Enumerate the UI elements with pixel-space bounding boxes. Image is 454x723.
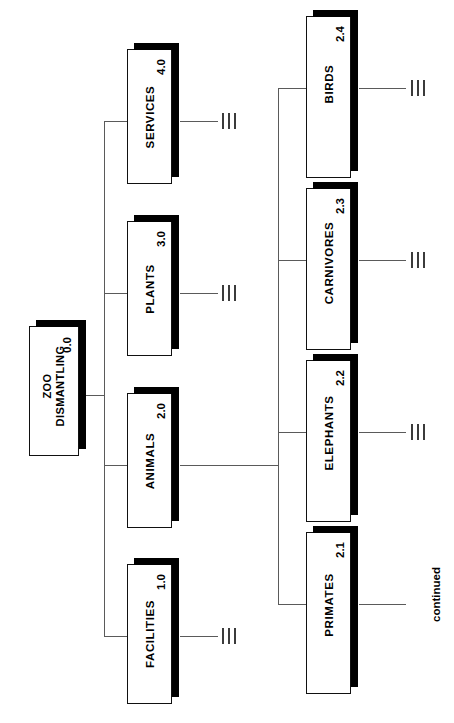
wbs-label-carnivores-wrap: CARNIVORES — [322, 221, 335, 304]
node-shadow-cap — [134, 558, 179, 565]
node-shadow-cap — [313, 10, 358, 17]
wbs-node-birds[interactable]: 2.4 BIRDS — [306, 16, 351, 178]
node-body: 2.2 ELEPHANTS — [307, 361, 350, 521]
wbs-node-zoo-dismantling[interactable]: 0.0 ZOO DISMANTLING — [29, 326, 79, 456]
node-shadow — [172, 558, 179, 697]
wbs-code-birds: 2.4 — [334, 26, 346, 42]
node-shadow — [351, 354, 358, 515]
wbs-label-elephants-wrap: ELEPHANTS — [322, 395, 335, 470]
wbs-label-facilities: FACILITIES — [143, 600, 156, 668]
stub-mark — [234, 285, 236, 301]
node-body: 3.0 PLANTS — [128, 222, 171, 355]
wbs-label-carnivores: CARNIVORES — [322, 221, 335, 304]
wbs-node-elephants[interactable]: 2.2 ELEPHANTS — [306, 360, 351, 522]
wbs-code-services: 4.0 — [155, 59, 167, 75]
stub-mark — [234, 113, 236, 129]
wbs-code-carnivores: 2.3 — [334, 198, 346, 214]
wbs-node-services[interactable]: 4.0 SERVICES — [127, 49, 172, 184]
stub-mark — [417, 424, 419, 440]
stub-mark — [411, 252, 413, 268]
wbs-code-elephants: 2.2 — [334, 370, 346, 386]
stub-line-services — [180, 121, 218, 122]
wbs-label-facilities-wrap: FACILITIES — [143, 600, 156, 668]
stub-line-carnivores — [359, 260, 406, 261]
connector-trunk2-to-primates — [278, 604, 306, 605]
stub-mark — [222, 113, 224, 129]
node-shadow — [172, 387, 179, 521]
node-shadow-cap — [313, 354, 358, 361]
stub-marker-plants — [222, 285, 236, 301]
node-shadow — [351, 526, 358, 687]
connector-trunk2-to-birds — [278, 88, 306, 89]
node-shadow-cap — [134, 387, 179, 394]
wbs-code-plants: 3.0 — [155, 231, 167, 247]
wbs-code-animals: 2.0 — [155, 403, 167, 419]
stub-marker-services — [222, 113, 236, 129]
wbs-label-primates-wrap: PRIMATES — [322, 573, 335, 636]
connector-trunk2-to-elephants — [278, 432, 306, 433]
wbs-label-elephants: ELEPHANTS — [322, 395, 335, 470]
connector-trunk-to-plants — [104, 293, 127, 294]
node-shadow — [351, 10, 358, 171]
stub-mark — [417, 80, 419, 96]
wbs-node-animals[interactable]: 2.0 ANIMALS — [127, 393, 172, 528]
wbs-label-birds: BIRDS — [322, 65, 335, 104]
wbs-label-root: ZOO DISMANTLING — [41, 345, 67, 426]
wbs-code-primates: 2.1 — [334, 542, 346, 558]
connector-level1-trunk — [104, 121, 105, 637]
connector-level2-trunk — [278, 88, 279, 605]
node-body: 2.0 ANIMALS — [128, 394, 171, 527]
stub-line-plants — [180, 293, 218, 294]
wbs-node-carnivores[interactable]: 2.3 CARNIVORES — [306, 188, 351, 350]
stub-line-elephants — [359, 432, 406, 433]
stub-mark — [411, 424, 413, 440]
stub-mark — [423, 424, 425, 440]
stub-mark — [423, 80, 425, 96]
node-shadow — [79, 320, 86, 449]
connector-animals-stem — [180, 465, 279, 466]
wbs-label-plants: PLANTS — [143, 264, 156, 314]
stub-line-primates — [359, 604, 406, 605]
stub-mark — [234, 628, 236, 644]
wbs-code-facilities: 1.0 — [155, 574, 167, 590]
wbs-node-primates[interactable]: 2.1 PRIMATES — [306, 532, 351, 694]
node-body: 0.0 ZOO DISMANTLING — [30, 327, 78, 455]
wbs-label-services: SERVICES — [143, 85, 156, 148]
wbs-label-root-line2: DISMANTLING — [54, 345, 67, 426]
node-body: 2.3 CARNIVORES — [307, 189, 350, 349]
wbs-label-services-wrap: SERVICES — [143, 85, 156, 148]
stub-mark — [222, 628, 224, 644]
stub-mark — [228, 113, 230, 129]
wbs-node-facilities[interactable]: 1.0 FACILITIES — [127, 564, 172, 704]
stub-mark — [423, 252, 425, 268]
stub-marker-birds — [411, 80, 425, 96]
stub-mark — [417, 252, 419, 268]
stub-mark — [411, 80, 413, 96]
node-body: 2.4 BIRDS — [307, 17, 350, 177]
node-body: 1.0 FACILITIES — [128, 565, 171, 703]
connector-trunk2-to-carnivores — [278, 260, 306, 261]
wbs-label-birds-wrap: BIRDS — [322, 65, 335, 104]
wbs-label-animals: ANIMALS — [143, 432, 156, 489]
wbs-diagram-canvas: 0.0 ZOO DISMANTLING 4.0 SERVICES 3.0 PLA… — [0, 0, 454, 723]
stub-marker-carnivores — [411, 252, 425, 268]
node-shadow — [351, 182, 358, 343]
stub-marker-elephants — [411, 424, 425, 440]
wbs-label-primates: PRIMATES — [322, 573, 335, 636]
wbs-label-root-line1: ZOO — [41, 345, 54, 426]
stub-marker-facilities — [222, 628, 236, 644]
node-shadow-cap — [313, 182, 358, 189]
continued-label: continued — [430, 567, 442, 622]
wbs-label-plants-wrap: PLANTS — [143, 264, 156, 314]
wbs-node-plants[interactable]: 3.0 PLANTS — [127, 221, 172, 356]
node-shadow-cap — [36, 320, 86, 327]
node-body: 2.1 PRIMATES — [307, 533, 350, 693]
connector-trunk-to-services — [104, 121, 127, 122]
stub-mark — [228, 628, 230, 644]
node-shadow — [172, 43, 179, 177]
connector-trunk-to-facilities — [104, 636, 127, 637]
node-shadow-cap — [134, 43, 179, 50]
stub-mark — [222, 285, 224, 301]
node-shadow — [172, 215, 179, 349]
node-shadow-cap — [313, 526, 358, 533]
